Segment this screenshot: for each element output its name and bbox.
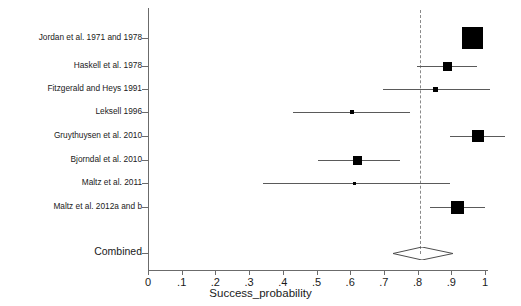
estimate-marker (353, 156, 362, 165)
summary-diamond (393, 247, 453, 260)
study-tick (142, 136, 148, 137)
estimate-marker (433, 87, 438, 92)
estimate-marker (443, 62, 452, 71)
combined-label: Combined (94, 247, 142, 256)
estimate-marker (472, 130, 484, 142)
study-tick (142, 112, 148, 113)
x-tick (148, 270, 149, 275)
estimate-marker (462, 27, 483, 49)
estimate-marker (350, 110, 354, 114)
combined-tick (142, 253, 148, 254)
x-tick (451, 270, 452, 275)
study-label: Fitzgerald and Heys 1991 (47, 84, 142, 93)
study-label: Bjorndal et al. 2010 (71, 155, 143, 164)
x-tick (485, 270, 486, 275)
study-tick (142, 183, 148, 184)
y-axis-line (148, 8, 149, 270)
x-tick (249, 270, 250, 275)
x-tick (384, 270, 385, 275)
study-label: Maltz et al. 2011 (82, 178, 142, 187)
x-tick (182, 270, 183, 275)
study-label: Jordan et al. 1971 and 1978 (39, 33, 142, 42)
study-label: Haskell et al. 1978 (74, 61, 142, 70)
x-axis-label: Success_probability (0, 287, 521, 299)
x-axis-line (148, 270, 488, 271)
forest-plot: Jordan et al. 1971 and 1978Haskell et al… (0, 0, 521, 306)
estimate-marker (353, 182, 356, 185)
x-tick (283, 270, 284, 275)
confidence-interval-line (263, 183, 450, 184)
study-tick (142, 89, 148, 90)
x-tick (317, 270, 318, 275)
study-label: Gruythuysen et al. 2010 (54, 131, 142, 140)
study-tick (142, 66, 148, 67)
study-tick (142, 38, 148, 39)
estimate-marker (451, 201, 464, 214)
study-label: Maltz et al. 2012a and b (53, 202, 142, 211)
study-label: Leksell 1996 (95, 107, 142, 116)
reference-line (420, 10, 421, 254)
x-tick (418, 270, 419, 275)
study-tick (142, 207, 148, 208)
x-tick (350, 270, 351, 275)
study-tick (142, 160, 148, 161)
x-tick (215, 270, 216, 275)
